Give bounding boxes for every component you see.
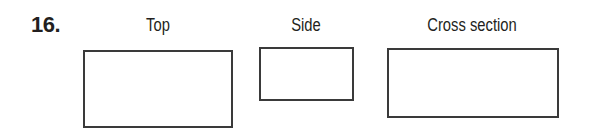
cross-section-rectangle — [387, 48, 559, 118]
problem-number: 16. — [31, 12, 60, 38]
side-view-label: Side — [288, 15, 324, 36]
top-view-rectangle — [83, 50, 233, 128]
side-view-rectangle — [259, 47, 354, 101]
top-view-label: Top — [143, 15, 173, 36]
cross-section-label: Cross section — [423, 15, 521, 36]
